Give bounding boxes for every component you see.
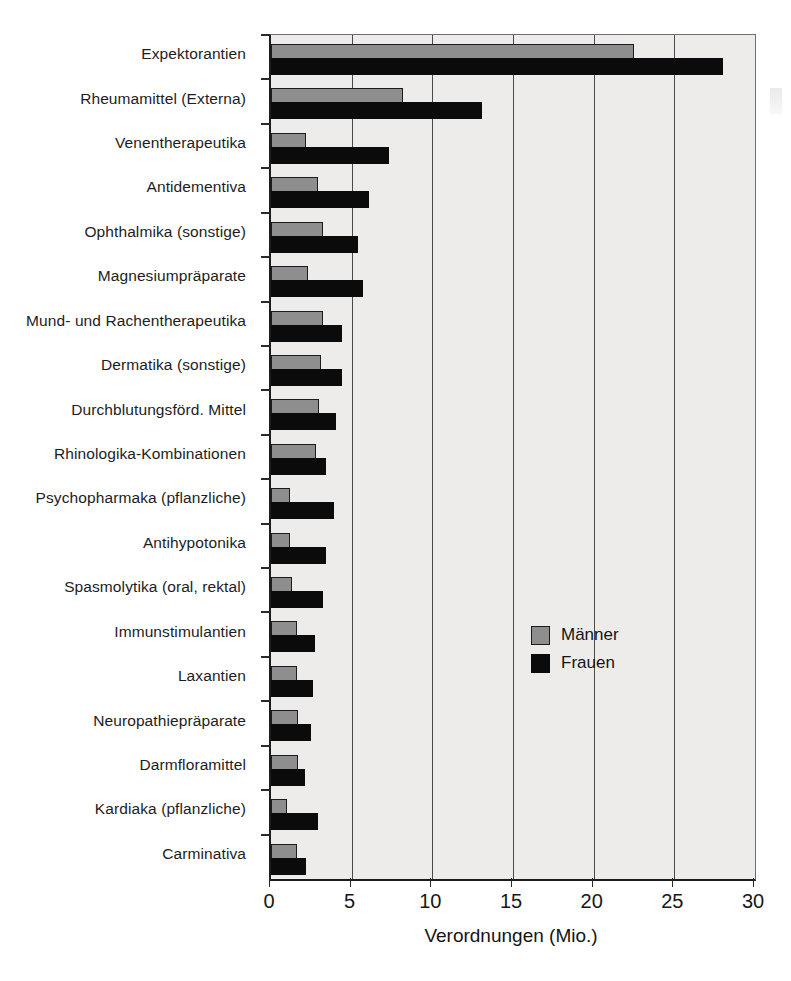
bar-frauen (271, 102, 482, 119)
category-label: Kardiaka (pflanzliche) (95, 800, 246, 818)
bar-group (271, 524, 755, 568)
value-axis-tick-label: 5 (344, 890, 355, 913)
category-axis-tick (261, 611, 270, 613)
bar-maenner (271, 755, 298, 770)
category-label: Darmfloramittel (139, 756, 246, 774)
bar-frauen (271, 58, 723, 75)
bar-maenner (271, 799, 287, 814)
plot-area (269, 34, 756, 881)
category-axis-tick (261, 389, 270, 391)
bar-maenner (271, 177, 318, 192)
legend: Männer Frauen (531, 621, 619, 677)
category-label: Spasmolytika (oral, rektal) (64, 578, 246, 596)
category-axis-tick (261, 345, 270, 347)
category-axis-tick (261, 789, 270, 791)
bar-frauen (271, 680, 313, 697)
category-axis-tick (261, 523, 270, 525)
legend-label-maenner: Männer (561, 625, 619, 645)
legend-swatch-maenner-icon (531, 626, 550, 645)
category-axis-tick (261, 123, 270, 125)
category-label: Expektorantien (141, 45, 246, 63)
value-axis-tick (511, 878, 512, 887)
bar-group (271, 346, 755, 390)
category-label: Antidementiva (146, 178, 246, 196)
bar-group (271, 257, 755, 301)
bar-maenner (271, 311, 323, 326)
category-label: Rheumamittel (Externa) (80, 90, 246, 108)
bar-group (271, 657, 755, 701)
category-axis-tick (261, 567, 270, 569)
value-axis-tick-label: 25 (661, 890, 683, 913)
bar-maenner (271, 844, 297, 859)
category-axis-tick (261, 745, 270, 747)
bar-frauen (271, 369, 342, 386)
category-label: Venentherapeutika (115, 134, 246, 152)
bar-group (271, 390, 755, 434)
category-label: Immunstimulantien (114, 623, 246, 641)
legend-item-maenner: Männer (531, 621, 619, 649)
bar-maenner (271, 399, 319, 414)
bar-maenner (271, 222, 323, 237)
value-axis-tick (350, 878, 351, 887)
bar-frauen (271, 813, 318, 830)
bar-group (271, 79, 755, 123)
category-axis-tick (261, 167, 270, 169)
bar-maenner (271, 44, 634, 59)
bar-maenner (271, 710, 298, 725)
bar-group (271, 213, 755, 257)
bar-frauen (271, 547, 326, 564)
bar-maenner (271, 533, 290, 548)
category-axis-tick (261, 301, 270, 303)
bar-group (271, 612, 755, 656)
category-label: Magnesiumpräparate (98, 267, 246, 285)
bar-frauen (271, 191, 369, 208)
x-axis-title: Verordnungen (Mio.) (269, 925, 753, 947)
value-axis-tick (592, 878, 593, 887)
category-axis-tick (261, 434, 270, 436)
legend-label-frauen: Frauen (561, 653, 615, 673)
bar-maenner (271, 488, 290, 503)
bar-maenner (271, 88, 403, 103)
category-axis-tick (261, 656, 270, 658)
value-axis-tick (269, 878, 270, 887)
value-axis-tick (430, 878, 431, 887)
bar-maenner (271, 621, 297, 636)
category-axis-tick (261, 834, 270, 836)
bar-group (271, 124, 755, 168)
bar-frauen (271, 458, 326, 475)
value-axis-tick (753, 878, 754, 887)
bar-group (271, 701, 755, 745)
bar-maenner (271, 666, 297, 681)
bar-frauen (271, 236, 358, 253)
bar-frauen (271, 280, 363, 297)
bar-group (271, 435, 755, 479)
bar-group (271, 35, 755, 79)
bar-frauen (271, 502, 334, 519)
category-axis-tick (261, 700, 270, 702)
bar-frauen (271, 591, 323, 608)
category-label: Carminativa (162, 845, 246, 863)
category-axis-tick (261, 478, 270, 480)
bar-group (271, 835, 755, 879)
bar-maenner (271, 266, 308, 281)
bar-frauen (271, 413, 336, 430)
legend-swatch-frauen-icon (531, 654, 550, 673)
category-label: Neuropathiepräparate (93, 712, 246, 730)
bar-chart: ExpektorantienRheumamittel (Externa)Vene… (0, 0, 791, 981)
category-label: Laxantien (178, 667, 246, 685)
value-axis-tick-label: 30 (742, 890, 764, 913)
bar-frauen (271, 724, 311, 741)
bar-group (271, 168, 755, 212)
value-axis-tick (672, 878, 673, 887)
bar-group (271, 746, 755, 790)
category-axis-tick (261, 256, 270, 258)
bar-group (271, 302, 755, 346)
bar-group (271, 568, 755, 612)
category-label: Mund- und Rachentherapeutika (26, 312, 246, 330)
bar-maenner (271, 355, 321, 370)
legend-item-frauen: Frauen (531, 649, 619, 677)
category-label: Ophthalmika (sonstige) (84, 223, 246, 241)
bar-group (271, 790, 755, 834)
value-axis-tick-label: 10 (419, 890, 441, 913)
bar-group (271, 479, 755, 523)
